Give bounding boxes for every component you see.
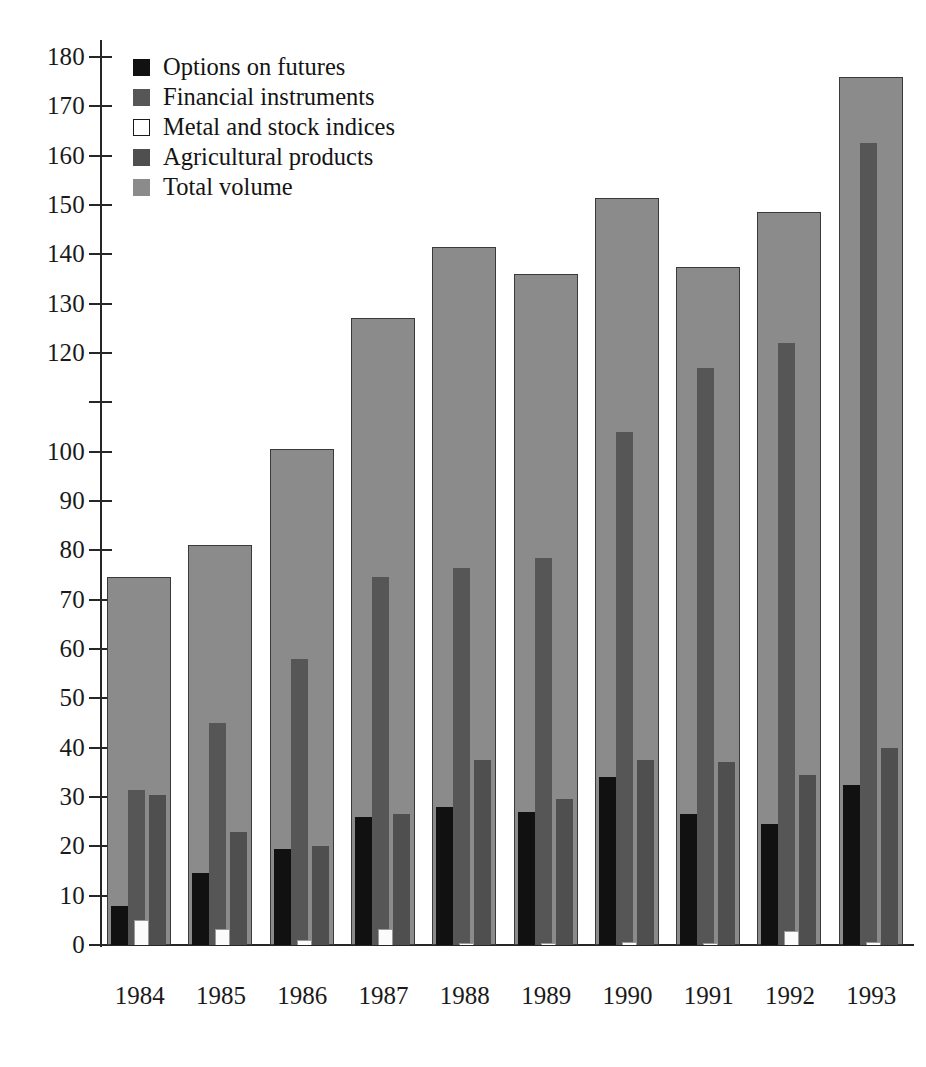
bar-options-1992 xyxy=(761,824,778,945)
legend-item: Financial instruments xyxy=(133,82,395,112)
bar-agricultural-1984 xyxy=(149,795,166,945)
bar-metal-1987 xyxy=(378,929,393,945)
bar-metal-1984 xyxy=(134,920,149,945)
y-axis-label-text: 130 xyxy=(29,291,85,316)
y-axis-tick xyxy=(89,56,112,58)
y-axis-label: 30 xyxy=(20,784,85,809)
bar-options-1993 xyxy=(843,785,860,945)
y-axis-label: 40 xyxy=(20,735,85,760)
bar-financial-1989 xyxy=(535,558,552,945)
bar-financial-1992 xyxy=(778,343,795,945)
y-axis-label-text: 50 xyxy=(29,685,85,710)
y-axis-label-text: 170 xyxy=(29,93,85,118)
legend-item-label: Metal and stock indices xyxy=(163,114,395,140)
y-axis-label-text: 150 xyxy=(29,192,85,217)
bar-metal-1989 xyxy=(541,943,556,945)
bar-options-1986 xyxy=(274,849,291,945)
y-axis-label-text: 180 xyxy=(29,44,85,69)
legend-swatch-icon xyxy=(133,89,150,106)
x-axis-label-1987: 1987 xyxy=(343,982,424,1010)
legend-swatch-icon xyxy=(133,59,150,76)
bar-options-1984 xyxy=(111,906,128,945)
y-axis-tick xyxy=(89,303,112,305)
bar-options-1987 xyxy=(355,817,372,945)
legend-item: Total volume xyxy=(133,172,395,202)
y-axis-tick xyxy=(89,253,112,255)
y-axis-label-text: 120 xyxy=(29,340,85,365)
y-axis-label-text: 20 xyxy=(29,833,85,858)
y-axis-label: 150 xyxy=(20,192,85,217)
y-axis-label: 160 xyxy=(20,143,85,168)
legend-item-label: Total volume xyxy=(163,174,293,200)
y-axis-label: 170 xyxy=(20,93,85,118)
bar-agricultural-1985 xyxy=(230,832,247,945)
y-axis-label: 70 xyxy=(20,587,85,612)
chart-root: 0102030405060708090100120130140150160170… xyxy=(0,0,926,1067)
bar-agricultural-1989 xyxy=(556,799,573,945)
bar-options-1989 xyxy=(518,812,535,945)
bar-financial-1990 xyxy=(616,432,633,945)
y-axis-label-text: 10 xyxy=(29,883,85,908)
bar-metal-1992 xyxy=(784,931,799,945)
legend-item: Options on futures xyxy=(133,52,395,82)
legend-item: Agricultural products xyxy=(133,142,395,172)
y-axis-tick xyxy=(89,155,112,157)
bar-options-1988 xyxy=(436,807,453,945)
x-axis-label-1984: 1984 xyxy=(99,982,180,1010)
y-axis-label-text: 80 xyxy=(29,537,85,562)
bar-agricultural-1991 xyxy=(718,762,735,945)
y-axis-label: 180 xyxy=(20,44,85,69)
y-axis-tick xyxy=(89,500,112,502)
x-axis-label-1985: 1985 xyxy=(180,982,261,1010)
y-axis-label-text: 140 xyxy=(29,241,85,266)
y-axis-tick xyxy=(89,352,112,354)
legend-item: Metal and stock indices xyxy=(133,112,395,142)
y-axis-label: 120 xyxy=(20,340,85,365)
y-axis-tick xyxy=(89,549,112,551)
x-axis-label-1988: 1988 xyxy=(424,982,505,1010)
bar-agricultural-1992 xyxy=(799,775,816,945)
x-axis-label-1989: 1989 xyxy=(506,982,587,1010)
y-axis-label-text: 30 xyxy=(29,784,85,809)
y-axis-label: 20 xyxy=(20,833,85,858)
y-axis-label-text: 70 xyxy=(29,587,85,612)
y-axis-label-text: 60 xyxy=(29,636,85,661)
bar-agricultural-1986 xyxy=(312,846,329,945)
bar-metal-1988 xyxy=(459,943,474,945)
y-axis-tick xyxy=(89,105,112,107)
y-axis-line xyxy=(100,40,102,947)
bar-financial-1993 xyxy=(860,143,877,945)
y-axis-label: 130 xyxy=(20,291,85,316)
y-axis-tick xyxy=(89,401,112,403)
legend-swatch-icon xyxy=(133,179,150,196)
x-axis-label-1990: 1990 xyxy=(587,982,668,1010)
legend-swatch-icon xyxy=(133,149,150,166)
y-axis-label-text: 0 xyxy=(29,932,85,957)
y-axis-label: 60 xyxy=(20,636,85,661)
bar-agricultural-1993 xyxy=(881,748,898,945)
bar-metal-1985 xyxy=(215,929,230,945)
bar-agricultural-1988 xyxy=(474,760,491,945)
x-axis-label-1992: 1992 xyxy=(749,982,830,1010)
x-axis-label-1986: 1986 xyxy=(262,982,343,1010)
y-axis-label-text: 100 xyxy=(29,439,85,464)
bar-agricultural-1990 xyxy=(637,760,654,945)
bar-options-1990 xyxy=(599,777,616,945)
legend-swatch-icon xyxy=(133,119,150,136)
plot-area: 0102030405060708090100120130140150160170… xyxy=(0,0,926,1067)
legend-item-label: Financial instruments xyxy=(163,84,375,110)
y-axis-label: 90 xyxy=(20,488,85,513)
y-axis-label-text: 40 xyxy=(29,735,85,760)
y-axis-label-text: 90 xyxy=(29,488,85,513)
bar-financial-1986 xyxy=(291,659,308,945)
y-axis-label: 10 xyxy=(20,883,85,908)
bar-metal-1993 xyxy=(866,942,881,945)
legend-item-label: Options on futures xyxy=(163,54,345,80)
y-axis-tick xyxy=(89,451,112,453)
y-axis-label-text: 160 xyxy=(29,143,85,168)
chart-legend: Options on futuresFinancial instrumentsM… xyxy=(133,52,395,202)
bar-financial-1987 xyxy=(372,577,389,945)
bar-financial-1991 xyxy=(697,368,714,945)
y-axis-label: 100 xyxy=(20,439,85,464)
bar-metal-1991 xyxy=(703,943,718,945)
